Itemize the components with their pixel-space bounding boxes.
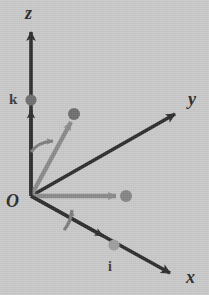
origin-label: O [6,192,19,210]
axis-label-y: y [188,90,196,108]
i-unit-vector-dot [108,239,119,250]
axis-label-z: z [25,4,32,22]
resultant-vector-endpoint-dot [68,108,80,120]
unit-vector-label-k: k [9,92,17,107]
coordinate-axes-canvas [0,0,209,295]
unit-vector-label-i: i [108,260,112,274]
angle-arc-upper [31,141,53,152]
j-projection-endpoint-dot [120,190,132,202]
i-unit-vector-line [31,196,103,236]
k-unit-vector-dot [25,94,36,105]
vector-diagram-figure: z y x O k i [0,0,209,295]
axis-label-x: x [186,268,195,286]
